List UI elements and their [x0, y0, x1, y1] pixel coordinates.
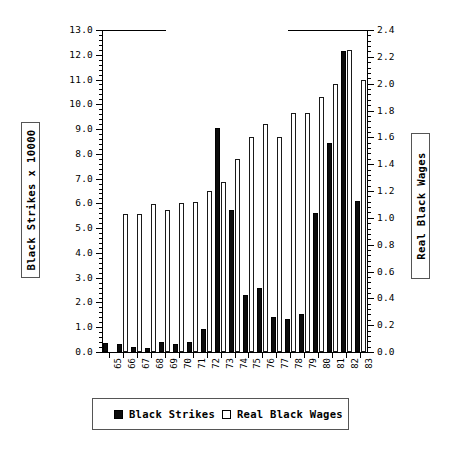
y-axis-left-minor-tick: [99, 312, 102, 313]
y-axis-right-minor-tick: [368, 73, 371, 74]
y-axis-left-minor-tick: [99, 50, 102, 51]
plot-top-rule-right: [288, 30, 368, 31]
y-axis-right-tick-label: 2.0: [377, 78, 395, 89]
y-axis-left-tick: [96, 253, 102, 254]
y-axis-right-tick: [368, 272, 374, 273]
y-axis-right-minor-tick: [368, 159, 371, 160]
x-axis-tick: [193, 353, 194, 358]
y-axis-right-minor-tick: [368, 347, 371, 348]
y-axis-right-minor-tick: [368, 46, 371, 47]
x-axis-tick: [290, 353, 291, 358]
y-axis-left-minor-tick: [99, 149, 102, 150]
y-axis-right-minor-tick: [368, 175, 371, 176]
x-axis-tick: [332, 353, 333, 358]
x-axis-tick: [151, 353, 152, 358]
y-axis-left-minor-tick: [99, 283, 102, 284]
bar-black-strikes: [257, 288, 262, 352]
bar-black-strikes: [299, 314, 304, 352]
y-axis-right-minor-tick: [368, 336, 371, 337]
y-axis-left-tick: [96, 129, 102, 130]
y-axis-left-minor-tick: [99, 60, 102, 61]
y-axis-left-minor-tick: [99, 248, 102, 249]
y-axis-right-tick-label: 0.4: [377, 292, 395, 303]
x-axis-tick: [123, 353, 124, 358]
legend-swatch-hollow-icon: [222, 410, 231, 419]
x-axis-tick-label: 77: [280, 358, 290, 369]
y-axis-right-minor-tick: [368, 229, 371, 230]
y-axis-right-tick: [368, 325, 374, 326]
bar-real-black-wages: [319, 97, 324, 352]
bar-real-black-wages: [235, 159, 240, 352]
y-axis-right-minor-tick: [368, 288, 371, 289]
x-axis-tick-label: 79: [308, 358, 318, 369]
y-axis-right-minor-tick: [368, 127, 371, 128]
x-axis-tick-label: 76: [266, 358, 276, 369]
y-axis-left-minor-tick: [99, 273, 102, 274]
bar-real-black-wages: [361, 80, 366, 352]
y-axis-right-tick: [368, 30, 374, 31]
y-axis-right-minor-tick: [368, 186, 371, 187]
legend-item-real-black-wages: Real Black Wages: [222, 408, 343, 420]
y-axis-right-minor-tick: [368, 255, 371, 256]
y-axis-right-minor-tick: [368, 207, 371, 208]
y-axis-right-tick-label: 0.6: [377, 266, 395, 277]
y-axis-left-tick: [96, 302, 102, 303]
y-axis-right-minor-tick: [368, 202, 371, 203]
x-axis-tick-label: 70: [183, 358, 193, 369]
y-axis-left-tick-label: 8.0: [75, 148, 93, 159]
y-axis-right-minor-tick: [368, 148, 371, 149]
bar-black-strikes: [215, 128, 220, 352]
y-axis-left-minor-tick: [99, 213, 102, 214]
y-axis-right-minor-tick: [368, 282, 371, 283]
x-axis-tick: [262, 353, 263, 358]
bar-real-black-wages: [347, 50, 352, 352]
x-axis-tick-label: 75: [252, 358, 262, 369]
x-axis-tick-label: 81: [336, 358, 346, 369]
x-axis-tick-label: 66: [127, 358, 137, 369]
x-axis-tick: [109, 353, 110, 358]
bar-black-strikes: [145, 348, 150, 352]
bar-black-strikes: [173, 344, 178, 352]
y-axis-left-minor-tick: [99, 307, 102, 308]
x-axis-tick-label: 80: [322, 358, 332, 369]
x-axis-tick: [318, 353, 319, 358]
y-axis-right-tick: [368, 191, 374, 192]
y-axis-right-minor-tick: [368, 234, 371, 235]
x-axis-tick: [221, 353, 222, 358]
y-axis-right-minor-tick: [368, 239, 371, 240]
y-axis-right-tick: [368, 245, 374, 246]
y-axis-left-minor-tick: [99, 139, 102, 140]
chart-legend: Black Strikes Real Black Wages: [92, 398, 349, 430]
y-axis-left-tick: [96, 80, 102, 81]
y-axis-right-minor-tick: [368, 132, 371, 133]
y-axis-left-minor-tick: [99, 238, 102, 239]
y-axis-left-minor-tick: [99, 45, 102, 46]
x-axis-tick: [346, 353, 347, 358]
y-axis-left-tick-label: 1.0: [75, 321, 93, 332]
y-axis-left-minor-tick: [99, 124, 102, 125]
bar-black-strikes: [327, 143, 332, 352]
y-axis-left-minor-tick: [99, 298, 102, 299]
bar-black-strikes: [229, 210, 234, 352]
y-axis-left-tick: [96, 104, 102, 105]
y-axis-left-minor-tick: [99, 114, 102, 115]
bar-black-strikes: [271, 317, 276, 352]
y-axis-left-minor-tick: [99, 332, 102, 333]
x-axis-tick: [207, 353, 208, 358]
y-axis-left-tick: [96, 154, 102, 155]
y-axis-left-tick-label: 5.0: [75, 222, 93, 233]
y-axis-left-minor-tick: [99, 159, 102, 160]
y-axis-left-minor-tick: [99, 99, 102, 100]
y-axis-right-tick-label: 0.2: [377, 319, 395, 330]
y-axis-left-tick-label: 3.0: [75, 272, 93, 283]
bar-real-black-wages: [249, 137, 254, 352]
y-axis-left-minor-tick: [99, 342, 102, 343]
bar-real-black-wages: [291, 113, 296, 352]
bar-black-strikes: [285, 319, 290, 352]
y-axis-right-minor-tick: [368, 331, 371, 332]
y-axis-left-tick: [96, 55, 102, 56]
y-axis-left-title-box: Black Strikes x 10000: [21, 122, 40, 278]
y-axis-left-minor-tick: [99, 322, 102, 323]
y-axis-left-minor-tick: [99, 337, 102, 338]
y-axis-left-minor-tick: [99, 198, 102, 199]
